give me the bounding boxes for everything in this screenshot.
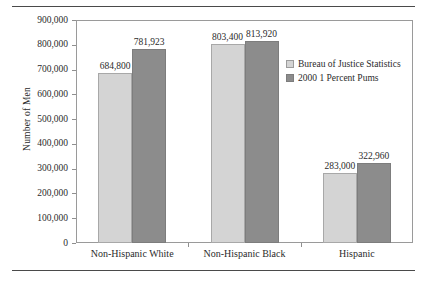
y-axis-tick-label: 400,000 (37, 138, 68, 148)
top-divider-rule (12, 6, 415, 7)
x-axis-category-label: Non-Hispanic Black (185, 248, 305, 259)
legend-item-label: Bureau of Justice Statistics (298, 59, 401, 69)
y-axis-tick-label: 800,000 (37, 39, 68, 49)
x-axis-category-label: Non-Hispanic White (72, 248, 192, 259)
y-axis-tick-label: 100,000 (37, 213, 68, 223)
y-axis-tick-label: 500,000 (37, 114, 68, 124)
y-axis-tick-label: 0 (63, 238, 68, 248)
bar (132, 49, 166, 243)
bar-value-label: 322,960 (348, 151, 400, 161)
y-axis-tick-label: 700,000 (37, 64, 68, 74)
bar-chart-figure: Number of Men 0100,000200,000300,000400,… (0, 0, 427, 281)
x-axis-tick-mark (188, 243, 189, 247)
y-axis-tick-label: 600,000 (37, 89, 68, 99)
legend-swatch-icon (286, 60, 294, 68)
bar (211, 44, 245, 243)
y-axis-tick-label: 200,000 (37, 188, 68, 198)
y-axis-tick-mark (72, 243, 76, 244)
bar (245, 41, 279, 243)
bar-value-label: 813,920 (236, 29, 288, 39)
bar (98, 73, 132, 243)
bottom-divider-rule (12, 270, 415, 271)
legend-item: 2000 1 Percent Pums (286, 71, 401, 84)
legend-swatch-icon (286, 74, 294, 82)
legend-item-label: 2000 1 Percent Pums (298, 73, 378, 83)
x-axis-category-label: Hispanic (297, 248, 417, 259)
bar (357, 163, 391, 243)
chart-legend: Bureau of Justice Statistics 2000 1 Perc… (286, 57, 401, 85)
y-axis-tick-label: 300,000 (37, 163, 68, 173)
y-axis-tick-label: 900,000 (37, 15, 68, 25)
y-axis-title: Number of Men (22, 59, 32, 179)
bar (323, 173, 357, 243)
bar-value-label: 781,923 (123, 37, 175, 47)
legend-item: Bureau of Justice Statistics (286, 57, 401, 70)
x-axis-tick-mark (301, 243, 302, 247)
